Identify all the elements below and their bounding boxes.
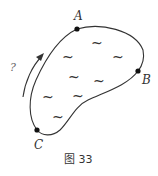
figure-caption: 图 33 (64, 153, 93, 166)
point-c-dot (34, 127, 39, 132)
tilde-mark: ~ (72, 88, 84, 104)
diagram-canvas: A B C ? ~ ~ ~ ~ ~ ~ ~ ~ 图 33 (0, 0, 158, 176)
point-c-label: C (34, 138, 43, 152)
tilde-mark: ~ (62, 49, 74, 65)
closed-curve-boundary (30, 27, 144, 135)
point-b-dot (135, 68, 140, 73)
tilde-mark: ~ (42, 89, 54, 105)
point-a-label: A (73, 9, 83, 23)
tilde-mark: ~ (68, 69, 80, 85)
tilde-mark: ~ (52, 109, 64, 125)
question-mark: ? (10, 61, 16, 74)
point-a-dot (74, 26, 79, 31)
point-b-label: B (141, 73, 151, 87)
tilde-mark: ~ (93, 73, 105, 89)
direction-arrow-head-icon (36, 53, 44, 61)
tilde-mark: ~ (112, 49, 124, 65)
tilde-mark: ~ (91, 35, 103, 51)
